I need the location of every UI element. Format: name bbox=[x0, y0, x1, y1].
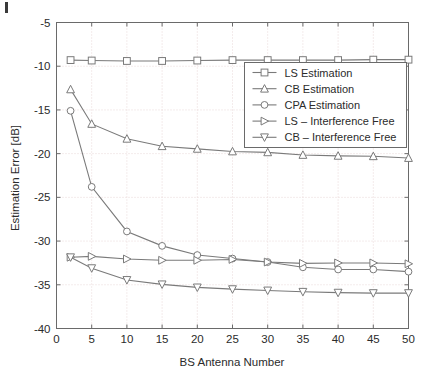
y-tick-label: -5 bbox=[40, 17, 50, 29]
legend-label: LS Estimation bbox=[285, 67, 353, 79]
legend-label: CB Estimation bbox=[285, 83, 355, 95]
data-point-marker-triangle-up bbox=[123, 135, 131, 143]
x-axis-title: BS Antenna Number bbox=[180, 356, 285, 368]
x-tick-label: 45 bbox=[367, 333, 380, 345]
y-tick-label: -15 bbox=[34, 104, 51, 116]
data-point-marker-square bbox=[88, 57, 95, 64]
data-point-marker-square bbox=[124, 58, 131, 65]
scan-artifact-mark bbox=[5, 2, 8, 13]
data-point-marker-circle bbox=[405, 268, 412, 275]
data-point-marker-circle bbox=[88, 183, 95, 190]
data-point-marker-triangle-right bbox=[124, 255, 132, 263]
y-tick-label: -25 bbox=[34, 191, 51, 203]
x-tick-label: 35 bbox=[297, 333, 310, 345]
data-point-marker-circle bbox=[124, 228, 131, 235]
data-point-marker-square bbox=[194, 57, 201, 64]
x-tick-label: 15 bbox=[156, 333, 169, 345]
data-point-marker-triangle-up bbox=[88, 120, 96, 128]
data-point-marker-circle bbox=[261, 102, 268, 109]
data-point-marker-circle bbox=[335, 266, 342, 273]
x-tick-label: 30 bbox=[261, 333, 274, 345]
y-tick-label: -20 bbox=[34, 148, 51, 160]
data-point-marker-square bbox=[261, 69, 268, 76]
series-line bbox=[71, 256, 409, 263]
x-tick-label: 0 bbox=[53, 333, 59, 345]
chart-legend[interactable]: LS EstimationCB EstimationCPA Estimation… bbox=[245, 63, 407, 148]
y-tick-label: -10 bbox=[34, 60, 51, 72]
x-tick-label: 50 bbox=[402, 333, 415, 345]
x-tick-label: 20 bbox=[191, 333, 204, 345]
legend-label: CPA Estimation bbox=[285, 99, 361, 111]
data-point-marker-circle bbox=[67, 107, 74, 114]
x-tick-label: 10 bbox=[121, 333, 134, 345]
data-point-marker-triangle-up bbox=[67, 85, 75, 93]
estimation-error-line-chart: 05101520253035404550-40-35-30-25-20-15-1… bbox=[0, 0, 424, 376]
y-tick-label: -40 bbox=[34, 323, 51, 335]
legend-label: LS – Interference Free bbox=[285, 115, 395, 127]
data-point-marker-circle bbox=[159, 242, 166, 249]
data-point-marker-square bbox=[67, 57, 74, 64]
x-tick-label: 40 bbox=[332, 333, 345, 345]
x-tick-label: 25 bbox=[226, 333, 239, 345]
y-tick-label: -35 bbox=[34, 279, 51, 291]
data-point-marker-circle bbox=[370, 266, 377, 273]
data-point-marker-square bbox=[229, 57, 236, 64]
y-axis-title: Estimation Error [dB] bbox=[9, 125, 21, 231]
series-ls-interference-free bbox=[67, 252, 412, 267]
data-point-marker-square bbox=[159, 58, 166, 65]
series-line bbox=[71, 60, 409, 61]
chart-figure: 05101520253035404550-40-35-30-25-20-15-1… bbox=[0, 0, 424, 376]
x-tick-label: 5 bbox=[88, 333, 94, 345]
legend-label: CB – Interference Free bbox=[285, 131, 397, 143]
y-tick-label: -30 bbox=[34, 235, 51, 247]
